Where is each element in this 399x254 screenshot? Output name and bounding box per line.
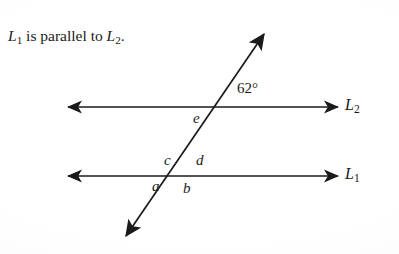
angle-label-c: c xyxy=(164,152,171,169)
line-label-L1-subscript: 1 xyxy=(354,172,360,184)
line-label-L2: L2 xyxy=(345,96,360,115)
angle-label-d: d xyxy=(196,152,204,169)
angle-label-a: a xyxy=(152,178,160,195)
transversal-stroke xyxy=(126,34,264,236)
geometry-figure: L1 is parallel to L2. L2 L1 xyxy=(0,0,399,254)
line-label-L2-variable: L xyxy=(345,96,354,113)
line-label-L1: L1 xyxy=(345,165,360,184)
figure-line-art xyxy=(0,0,399,254)
line-label-L1-variable: L xyxy=(345,165,354,182)
angle-label-b: b xyxy=(183,180,191,197)
angle-label-e: e xyxy=(193,110,200,127)
line-label-L2-subscript: 2 xyxy=(354,103,360,115)
angle-label-62-degrees: 62° xyxy=(237,80,258,97)
